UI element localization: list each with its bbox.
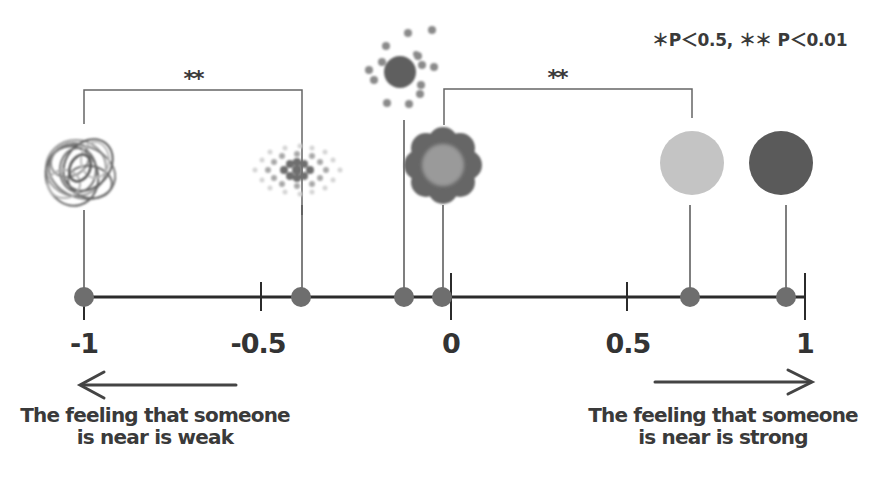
tick-label-neg05: -0.5 (230, 330, 285, 357)
significance-bracket-right (444, 89, 692, 125)
caption-strong-line2: is near is strong (578, 426, 868, 448)
scribble-tangle-icon (39, 129, 123, 211)
tick-label-0: 0 (442, 330, 460, 357)
caption-weak: The feeling that someone is near is weak (10, 404, 300, 448)
tick-label-05: 0.5 (606, 330, 651, 357)
caption-strong: The feeling that someone is near is stro… (578, 404, 868, 448)
significance-stars-right: ** (547, 67, 566, 89)
arrow-right-icon (655, 370, 812, 394)
significance-stars-left: ** (183, 68, 202, 90)
dotted-haze-icon (253, 144, 343, 197)
caption-weak-line2: is near is weak (10, 426, 300, 448)
dot-with-satellites-icon (365, 26, 438, 108)
light-gray-circle-icon (660, 131, 724, 195)
dark-gray-circle-icon (749, 131, 813, 195)
tick-label-1: 1 (796, 330, 814, 357)
flower-icon (404, 127, 482, 204)
arrow-left-icon (80, 372, 236, 398)
caption-weak-line1: The feeling that someone (10, 404, 300, 426)
significance-legend: ＊P＜0.5, ＊＊ P＜0.01 (652, 26, 847, 51)
tick-label-neg1: -1 (70, 330, 98, 357)
caption-strong-line1: The feeling that someone (578, 404, 868, 426)
